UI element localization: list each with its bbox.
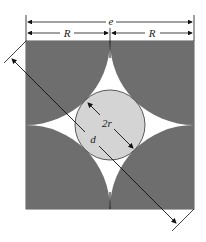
packing-diagram: e R R d 2r xyxy=(0,0,206,242)
label-R-right: R xyxy=(148,27,156,39)
label-d: d xyxy=(90,133,96,145)
dimension-R: R R xyxy=(28,27,192,41)
label-R-left: R xyxy=(63,27,71,39)
label-2r: 2r xyxy=(102,117,113,129)
label-e: e xyxy=(109,15,114,27)
